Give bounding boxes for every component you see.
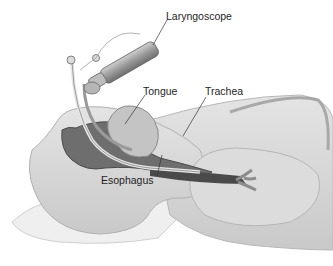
illustration [0,0,333,266]
label-tongue: Tongue [143,86,177,97]
label-esophagus: Esophagus [101,175,154,186]
label-trachea: Trachea [205,86,243,97]
label-laryngoscope: Laryngoscope [166,11,232,22]
tube-connector [67,56,75,64]
laryngoscope-head [84,82,100,94]
intubation-diagram: Laryngoscope Tongue Trachea Esophagus [0,0,333,266]
